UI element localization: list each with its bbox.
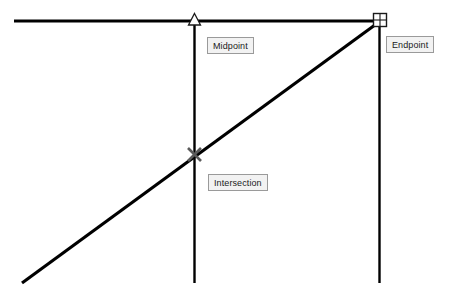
snap-tooltip-midpoint: Midpoint [207, 37, 254, 54]
snap-tooltip-endpoint: Endpoint [386, 36, 434, 53]
snap-tooltip-intersection-label: Intersection [214, 176, 262, 190]
diagonal-line[interactable] [22, 22, 379, 283]
snap-tooltip-intersection: Intersection [208, 174, 268, 191]
snap-tooltip-midpoint-label: Midpoint [213, 39, 248, 53]
midpoint-triangle-icon[interactable] [189, 14, 201, 26]
snap-tooltip-endpoint-label: Endpoint [392, 38, 428, 52]
cad-drawing-canvas[interactable]: Midpoint Endpoint Intersection [0, 0, 451, 300]
endpoint-square-icon[interactable] [374, 14, 387, 27]
